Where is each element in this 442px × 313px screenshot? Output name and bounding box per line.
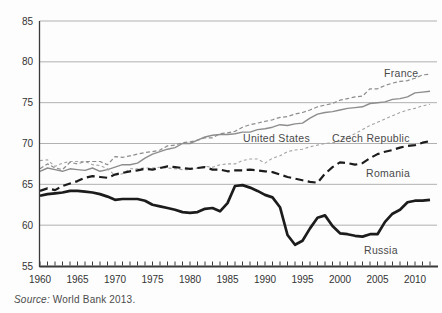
y-tick-label-55: 55 xyxy=(22,261,34,272)
y-tick-label-60: 60 xyxy=(22,220,34,231)
series-line-france xyxy=(40,74,430,170)
source-label: Source: xyxy=(14,294,50,305)
y-tick-label-65: 65 xyxy=(22,179,34,190)
x-tick-label-1990: 1990 xyxy=(254,274,277,285)
series-label-russia: Russia xyxy=(364,244,398,256)
line-chart: 5560657075808519601965197019751980198519… xyxy=(0,0,442,290)
y-tick-label-85: 85 xyxy=(22,16,34,27)
series-label-united-states: United States xyxy=(243,132,310,144)
series-label-romania: Romania xyxy=(366,167,410,179)
y-tick-label-80: 80 xyxy=(22,56,34,67)
y-tick-label-75: 75 xyxy=(22,97,34,108)
x-tick-label-1975: 1975 xyxy=(141,274,164,285)
x-tick-label-2000: 2000 xyxy=(329,274,352,285)
x-tick-label-1995: 1995 xyxy=(291,274,314,285)
source-text: World Bank 2013. xyxy=(50,294,136,305)
x-tick-label-1965: 1965 xyxy=(66,274,89,285)
series-line-russia xyxy=(40,185,430,245)
x-tick-label-1985: 1985 xyxy=(216,274,239,285)
series-label-france: France xyxy=(384,67,418,79)
series-label-czech-republic: Czech Republic xyxy=(332,132,410,144)
x-tick-label-1960: 1960 xyxy=(29,274,52,285)
x-tick-label-2010: 2010 xyxy=(404,274,427,285)
x-tick-label-1970: 1970 xyxy=(104,274,127,285)
y-tick-label-70: 70 xyxy=(22,138,34,149)
life-expectancy-figure: 5560657075808519601965197019751980198519… xyxy=(0,0,442,313)
series-line-romania xyxy=(40,141,430,191)
x-tick-label-1980: 1980 xyxy=(179,274,202,285)
x-tick-label-2005: 2005 xyxy=(366,274,389,285)
source-note: Source: World Bank 2013. xyxy=(14,294,135,305)
